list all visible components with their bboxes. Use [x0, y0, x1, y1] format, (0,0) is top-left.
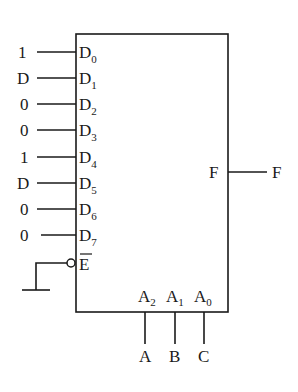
- input-d3: 0 D3: [20, 121, 97, 143]
- input-value: 0: [20, 95, 29, 114]
- select-signal-label: C: [198, 347, 209, 366]
- input-value: 0: [20, 200, 29, 219]
- input-d1: D D1: [17, 69, 97, 91]
- pin-label: D6: [79, 200, 97, 222]
- pin-label: D2: [79, 95, 97, 117]
- select-signal-label: B: [169, 347, 180, 366]
- mux-diagram: 1 D0 D D1 0 D2 0 D3 1 D4 D D5: [0, 0, 298, 392]
- input-d7: 0 D7: [20, 226, 97, 248]
- select-a1: A1 B: [166, 287, 184, 366]
- mux-box: [76, 34, 228, 312]
- output-pin-label: F: [209, 163, 218, 182]
- input-value: D: [17, 174, 29, 193]
- inversion-bubble-icon: [67, 259, 75, 267]
- input-d0: 1 D0: [18, 43, 97, 65]
- input-value: D: [17, 69, 29, 88]
- pin-label: A2: [138, 287, 156, 308]
- input-value: 1: [18, 43, 27, 62]
- input-d6: 0 D6: [20, 200, 97, 222]
- pin-label: A0: [194, 287, 212, 308]
- output-signal-label: F: [272, 163, 281, 182]
- input-value: 1: [20, 148, 29, 167]
- pin-label: A1: [166, 287, 184, 308]
- pin-label: D7: [79, 226, 97, 248]
- output: F F: [209, 163, 281, 182]
- pin-label: D3: [79, 121, 97, 143]
- input-d4: 1 D4: [20, 148, 97, 170]
- enable-input: E: [22, 254, 92, 290]
- input-d5: D D5: [17, 174, 97, 196]
- input-d2: 0 D2: [20, 95, 97, 117]
- pin-label: D1: [79, 69, 97, 91]
- pin-label: D4: [79, 148, 97, 170]
- enable-pin-label: E: [79, 255, 89, 274]
- select-inputs: A2 A A1 B A0 C: [138, 287, 212, 366]
- select-signal-label: A: [139, 347, 152, 366]
- input-value: 0: [20, 121, 29, 140]
- pin-label: D0: [79, 43, 97, 65]
- select-a2: A2 A: [138, 287, 156, 366]
- pin-label: D5: [79, 174, 97, 196]
- data-inputs: 1 D0 D D1 0 D2 0 D3 1 D4 D D5: [17, 43, 97, 248]
- select-a0: A0 C: [194, 287, 212, 366]
- input-value: 0: [20, 226, 29, 245]
